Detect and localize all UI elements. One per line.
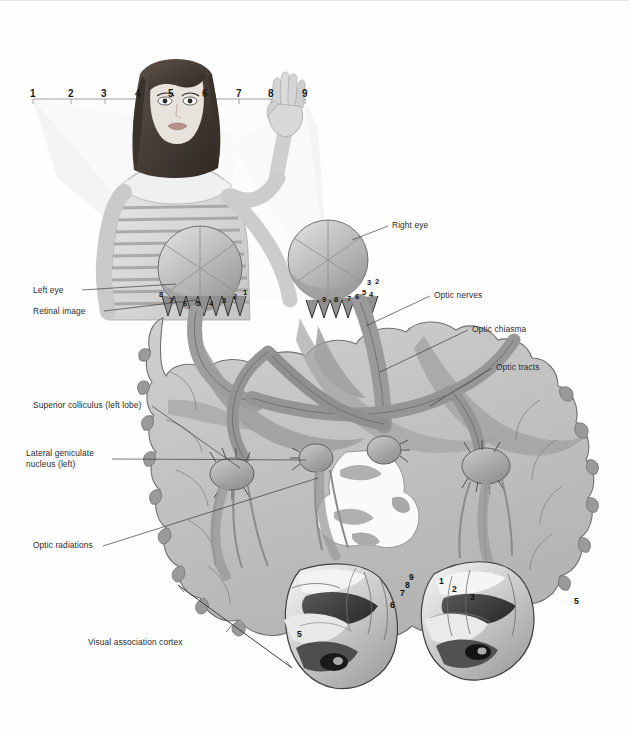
left-cortex-number-7: 7 (400, 588, 405, 598)
right-retina-number-9: 9 (322, 295, 326, 304)
left-retina-number-7: 7 (169, 296, 173, 305)
right-retina-number-8: 8 (334, 295, 338, 304)
left-retina-number-1: 1 (243, 288, 247, 297)
scale-tick-6: 6 (202, 88, 208, 99)
label-lateral-geniculate-nucleus: Lateral geniculate nucleus (left) (26, 448, 114, 470)
scale-tick-7: 7 (236, 88, 242, 99)
label-retinal-image: Retinal image (33, 306, 86, 317)
label-optic-radiations: Optic radiations (33, 540, 93, 551)
right-retina-number-5: 5 (362, 288, 366, 297)
scale-tick-5: 5 (168, 88, 174, 99)
scale-tick-1: 1 (30, 88, 36, 99)
label-visual-association-cortex: Visual association cortex (88, 637, 183, 648)
right-retina-number-4: 4 (369, 290, 373, 299)
right-retina-number-3: 3 (367, 278, 371, 287)
label-optic-chiasma: Optic chiasma (472, 324, 526, 335)
left-cortex-number-6: 6 (390, 600, 395, 610)
left-retina-number-2: 2 (233, 292, 237, 301)
scale-tick-3: 3 (101, 88, 107, 99)
right-cortex-number-3: 3 (470, 592, 475, 602)
label-optic-tracts: Optic tracts (496, 362, 540, 373)
label-right-eye: Right eye (392, 220, 428, 231)
left-retina-number-6: 6 (183, 299, 187, 308)
label-superior-colliculus: Superior colliculus (left lobe) (33, 400, 141, 411)
left-cortex-number-5: 5 (297, 629, 302, 639)
label-left-eye: Left eye (33, 285, 64, 296)
scale-tick-9: 9 (302, 88, 308, 99)
scale-tick-4: 4 (135, 88, 141, 99)
scale-tick-2: 2 (68, 88, 74, 99)
figure-canvas: 1 2 3 4 5 6 7 8 9 8 7 6 5 4 3 2 1 9 8 7 … (0, 0, 629, 732)
right-cortex-number-2: 2 (452, 584, 457, 594)
left-retina-number-8: 8 (159, 290, 163, 299)
left-retina-number-4: 4 (209, 299, 213, 308)
right-retina-number-6: 6 (355, 292, 359, 301)
scale-tick-8: 8 (268, 88, 274, 99)
left-cortex-number-8: 8 (405, 580, 410, 590)
left-retina-number-3: 3 (222, 296, 226, 305)
right-cortex-number-5: 5 (574, 596, 579, 606)
left-occipital-lobe (284, 564, 398, 689)
left-retina-number-5: 5 (196, 299, 200, 308)
right-retina-number-7: 7 (347, 294, 351, 303)
right-cortex-number-1: 1 (439, 576, 444, 586)
right-retina-number-2: 2 (375, 277, 379, 286)
label-optic-nerves: Optic nerves (434, 290, 482, 301)
